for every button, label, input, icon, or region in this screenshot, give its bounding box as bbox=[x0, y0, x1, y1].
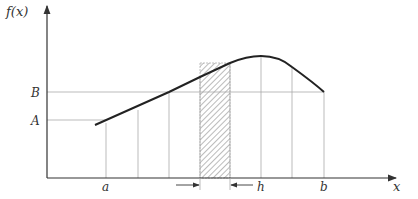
y-tick-a: A bbox=[30, 114, 40, 128]
diagram: f(x) x B A a h b bbox=[0, 0, 418, 199]
y-axis-label: f(x) bbox=[5, 4, 28, 19]
x-tick-b: b bbox=[320, 180, 328, 194]
x-tick-a: a bbox=[102, 180, 109, 194]
hatched-strip bbox=[200, 63, 230, 178]
y-tick-b: B bbox=[30, 86, 40, 100]
x-tick-h: h bbox=[257, 180, 265, 194]
x-axis-label: x bbox=[393, 179, 401, 194]
